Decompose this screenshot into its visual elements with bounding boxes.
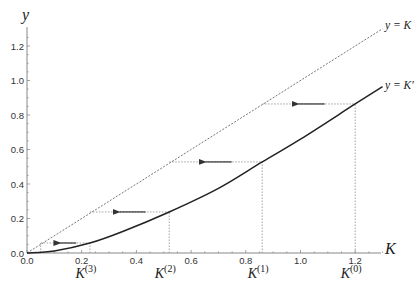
tick-labels: 0.00.20.40.60.81.01.20.00.20.40.60.81.01…: [11, 41, 362, 267]
y-tick-label: 1.0: [11, 75, 24, 86]
curve-label: y = K′: [384, 79, 414, 92]
y-tick-label: 0.2: [11, 213, 24, 224]
x-axis-label: K: [384, 240, 397, 257]
k-prime-curve: [27, 87, 383, 253]
iteration-labels: K(0)K(1)K(2)K(3): [74, 263, 361, 281]
iteration-label: K(1): [247, 263, 269, 281]
cobweb-chart: 0.00.20.40.60.81.01.20.00.20.40.60.81.01…: [0, 0, 420, 290]
y-tick-label: 1.2: [11, 41, 24, 52]
iteration-label: K(3): [74, 263, 96, 281]
step-arrows: [60, 104, 324, 243]
y-tick-label: 0.0: [11, 248, 24, 259]
plot-lines: [27, 29, 383, 253]
identity-line: [27, 29, 383, 253]
x-tick-label: 0.8: [239, 255, 252, 266]
y-axis-label: y: [20, 6, 30, 24]
y-tick-label: 0.4: [11, 179, 24, 190]
y-tick-label: 0.8: [11, 110, 24, 121]
x-tick-label: 1.0: [294, 255, 307, 266]
iteration-label: K(0): [340, 263, 362, 281]
x-tick-label: 0.6: [184, 255, 197, 266]
identity-line-label: y = K: [384, 19, 413, 32]
staircase-guides: [41, 104, 356, 253]
iteration-label: K(2): [154, 263, 176, 281]
y-tick-label: 0.6: [11, 144, 24, 155]
x-tick-label: 0.4: [130, 255, 143, 266]
